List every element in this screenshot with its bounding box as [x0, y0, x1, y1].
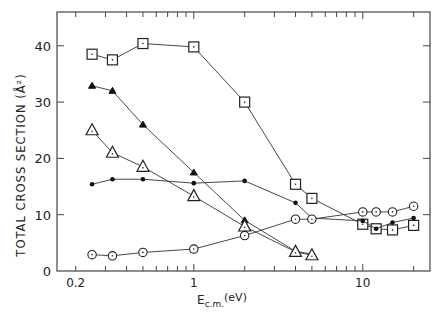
- open-triangle-marker: [188, 190, 200, 201]
- marker-center-dot: [142, 167, 144, 169]
- marker-center-dot: [112, 255, 114, 257]
- marker-center-dot: [244, 227, 246, 229]
- y-tick-label: 40: [34, 39, 51, 54]
- marker-center-dot: [193, 248, 195, 250]
- x-tick-label: 10: [355, 276, 370, 290]
- y-tick-label: 10: [34, 208, 51, 223]
- marker-center-dot: [362, 211, 364, 213]
- y-axis-label: TOTAL CROSS SECTION (Å²): [13, 73, 28, 257]
- dot-marker: [192, 181, 197, 186]
- marker-center-dot: [413, 225, 415, 227]
- series-filled-dots: [90, 177, 416, 231]
- marker-center-dot: [362, 223, 364, 225]
- x-axis-label-main: E: [197, 293, 205, 307]
- dot-marker: [141, 177, 146, 182]
- dot-marker: [242, 179, 247, 184]
- marker-center-dot: [91, 130, 93, 132]
- series-open-triangles: [86, 124, 318, 260]
- y-tick-label: 0: [43, 264, 51, 279]
- open-triangle-marker: [137, 160, 149, 171]
- series-line: [92, 130, 312, 255]
- marker-center-dot: [413, 205, 415, 207]
- dot-marker: [360, 219, 365, 224]
- marker-center-dot: [142, 43, 144, 45]
- series-open-squares: [87, 39, 419, 235]
- dot-marker: [293, 201, 298, 206]
- open-triangle-marker: [86, 124, 98, 135]
- marker-center-dot: [311, 255, 313, 257]
- x-tick-label: 0.2: [66, 276, 85, 290]
- y-tick-label: 20: [34, 151, 51, 166]
- marker-center-dot: [112, 59, 114, 61]
- marker-center-dot: [311, 218, 313, 220]
- marker-center-dot: [244, 101, 246, 103]
- dot-marker: [374, 226, 379, 231]
- dot-marker: [90, 182, 95, 187]
- x-axis-label: Ec.m.(eV): [197, 291, 247, 309]
- y-tick-label: 30: [34, 95, 51, 110]
- series-line: [92, 44, 414, 230]
- x-axis-label-unit: (eV): [224, 291, 247, 304]
- marker-center-dot: [311, 198, 313, 200]
- dot-marker: [390, 220, 395, 225]
- marker-center-dot: [91, 254, 93, 256]
- chart-canvas: 0.2110010203040 TOTAL CROSS SECTION (Å²)…: [0, 0, 444, 315]
- marker-center-dot: [193, 196, 195, 198]
- dot-marker: [411, 216, 416, 221]
- marker-center-dot: [295, 183, 297, 185]
- marker-center-dot: [392, 229, 394, 231]
- marker-center-dot: [193, 46, 195, 48]
- marker-center-dot: [295, 218, 297, 220]
- marker-center-dot: [142, 252, 144, 254]
- marker-center-dot: [112, 153, 114, 155]
- marker-center-dot: [244, 235, 246, 237]
- filled-triangle-marker: [89, 82, 96, 88]
- marker-center-dot: [91, 53, 93, 55]
- x-tick-label: 1: [190, 276, 198, 290]
- marker-center-dot: [392, 211, 394, 213]
- cross-section-chart: 0.2110010203040 TOTAL CROSS SECTION (Å²)…: [0, 0, 444, 315]
- marker-center-dot: [295, 252, 297, 254]
- open-triangle-marker: [290, 245, 302, 256]
- dot-marker: [110, 177, 115, 182]
- marker-center-dot: [375, 211, 377, 213]
- data-series: [86, 39, 419, 260]
- x-axis-label-sub: c.m.: [205, 299, 224, 309]
- series-line: [92, 86, 312, 254]
- open-triangle-marker: [239, 220, 251, 231]
- series-filled-triangles: [89, 82, 316, 256]
